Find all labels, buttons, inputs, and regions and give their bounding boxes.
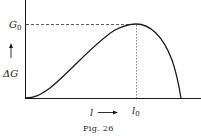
arrow-right-icon — [98, 111, 118, 115]
y-axis-label: ΔG — [2, 68, 18, 79]
figure-caption: Fig. 26 — [83, 124, 114, 133]
l0-label: l0 — [132, 105, 140, 118]
x-axis-label: l — [90, 107, 93, 118]
figure-26: G0 ΔG l l0 Fig. 26 — [0, 0, 201, 136]
arrow-up-icon — [9, 43, 13, 58]
g0-label: G0 — [9, 19, 21, 32]
delta-g-curve — [25, 24, 181, 98]
